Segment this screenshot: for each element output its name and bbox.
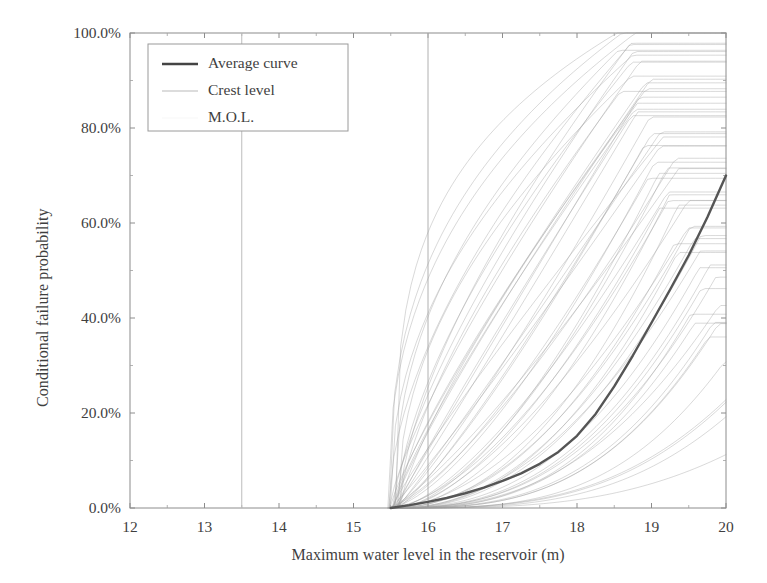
sample-fragility-curve [391, 226, 726, 508]
x-tick-label: 19 [644, 518, 660, 535]
x-axis-tick-labels: 121314151617181920 [122, 518, 734, 535]
legend-label-crest-level: Crest level [208, 81, 275, 98]
sample-fragility-curve [393, 289, 726, 508]
legend-label-average-curve: Average curve [208, 54, 298, 71]
figure-canvas: 121314151617181920 0.0%20.0%40.0%60.0%80… [0, 0, 767, 583]
sample-fragility-curve [399, 208, 726, 508]
sample-fragility-curve [391, 178, 726, 508]
x-tick-label: 20 [718, 518, 734, 535]
x-axis-label: Maximum water level in the reservoir (m) [130, 546, 726, 564]
x-tick-label: 18 [569, 518, 585, 535]
y-tick-label: 40.0% [81, 309, 121, 326]
sample-fragility-curve [388, 322, 726, 508]
sample-fragility-curve [388, 158, 726, 508]
x-tick-label: 13 [197, 518, 213, 535]
sample-fragility-curve [389, 33, 726, 508]
x-tick-label: 15 [346, 518, 362, 535]
sample-fragility-curves [388, 33, 726, 508]
sample-fragility-curve [398, 134, 726, 508]
x-tick-label: 14 [271, 518, 287, 535]
chart-legend: Average curveCrest levelM.O.L. [148, 44, 348, 131]
sample-fragility-curve [388, 33, 726, 508]
sample-fragility-curve [399, 252, 726, 508]
y-axis-tick-labels: 0.0%20.0%40.0%60.0%80.0%100.0% [73, 24, 121, 516]
x-tick-label: 12 [122, 518, 138, 535]
y-tick-label: 100.0% [73, 24, 121, 41]
chart-plot: 121314151617181920 0.0%20.0%40.0%60.0%80… [0, 0, 767, 583]
sample-fragility-curve [391, 337, 726, 508]
legend-label-m-o-l: M.O.L. [208, 108, 254, 125]
y-axis-label: Conditional failure probability [34, 208, 52, 407]
y-tick-label: 80.0% [81, 119, 121, 136]
sample-fragility-curve [389, 169, 726, 508]
x-tick-label: 16 [420, 518, 436, 535]
sample-fragility-curve [399, 91, 726, 508]
y-tick-label: 20.0% [81, 404, 121, 421]
x-tick-label: 17 [495, 518, 511, 535]
sample-fragility-curve [389, 228, 726, 508]
y-tick-label: 0.0% [89, 499, 121, 516]
y-tick-label: 60.0% [81, 214, 121, 231]
